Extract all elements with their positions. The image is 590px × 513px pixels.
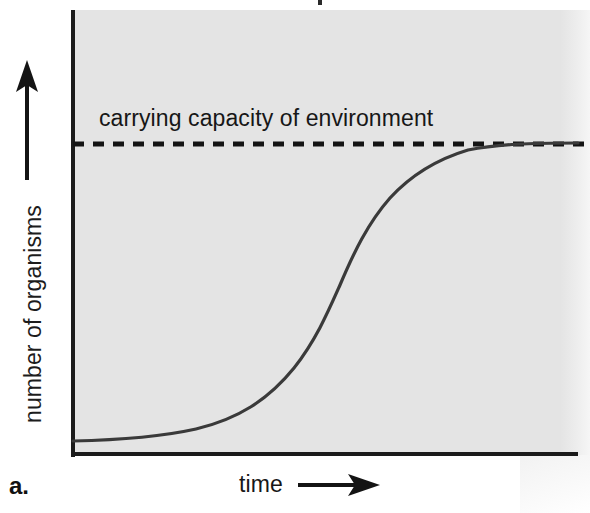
x-axis-line: [71, 452, 578, 456]
y-axis-label: number of organisms: [20, 205, 47, 423]
y-axis-line: [71, 10, 75, 457]
up-arrow-icon: [12, 58, 42, 180]
page-corner-fade: [520, 455, 590, 513]
right-arrow-icon: [296, 472, 382, 498]
figure-container: number of organisms carrying capacity of…: [0, 0, 590, 513]
x-axis-label: time: [239, 471, 283, 498]
carrying-capacity-annotation: carrying capacity of environment: [99, 105, 433, 132]
plot-panel-right-fade: [560, 10, 590, 455]
y-axis-label-wrapper: number of organisms: [16, 184, 50, 444]
panel-letter-label: a.: [9, 472, 29, 500]
cropped-caption-speck: [318, 0, 322, 5]
plot-panel-background: [72, 10, 578, 455]
